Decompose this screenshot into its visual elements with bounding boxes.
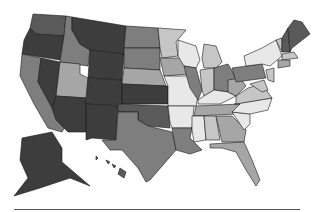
state-ne xyxy=(122,68,166,86)
state-ut xyxy=(56,62,88,98)
state-pa xyxy=(232,64,266,82)
state-ny xyxy=(244,40,282,66)
map-canvas xyxy=(0,0,327,212)
state-wy xyxy=(88,50,124,80)
state-ar xyxy=(168,106,194,128)
state-nd xyxy=(124,26,160,48)
state-sd xyxy=(124,48,160,70)
state-ma xyxy=(282,52,298,60)
state-fl xyxy=(210,142,260,186)
state-me xyxy=(288,20,310,52)
footer-rule xyxy=(14,209,300,210)
state-ks xyxy=(122,84,168,104)
us-choropleth-map xyxy=(0,0,327,212)
state-nj xyxy=(266,68,274,82)
state-wa xyxy=(30,14,66,36)
state-hi xyxy=(96,156,126,178)
state-ms xyxy=(192,116,206,142)
state-ak xyxy=(14,132,90,196)
state-mi xyxy=(202,44,222,68)
state-co xyxy=(86,78,122,106)
state-ct xyxy=(278,60,290,68)
state-nm xyxy=(86,104,118,140)
state-tn xyxy=(194,104,240,116)
